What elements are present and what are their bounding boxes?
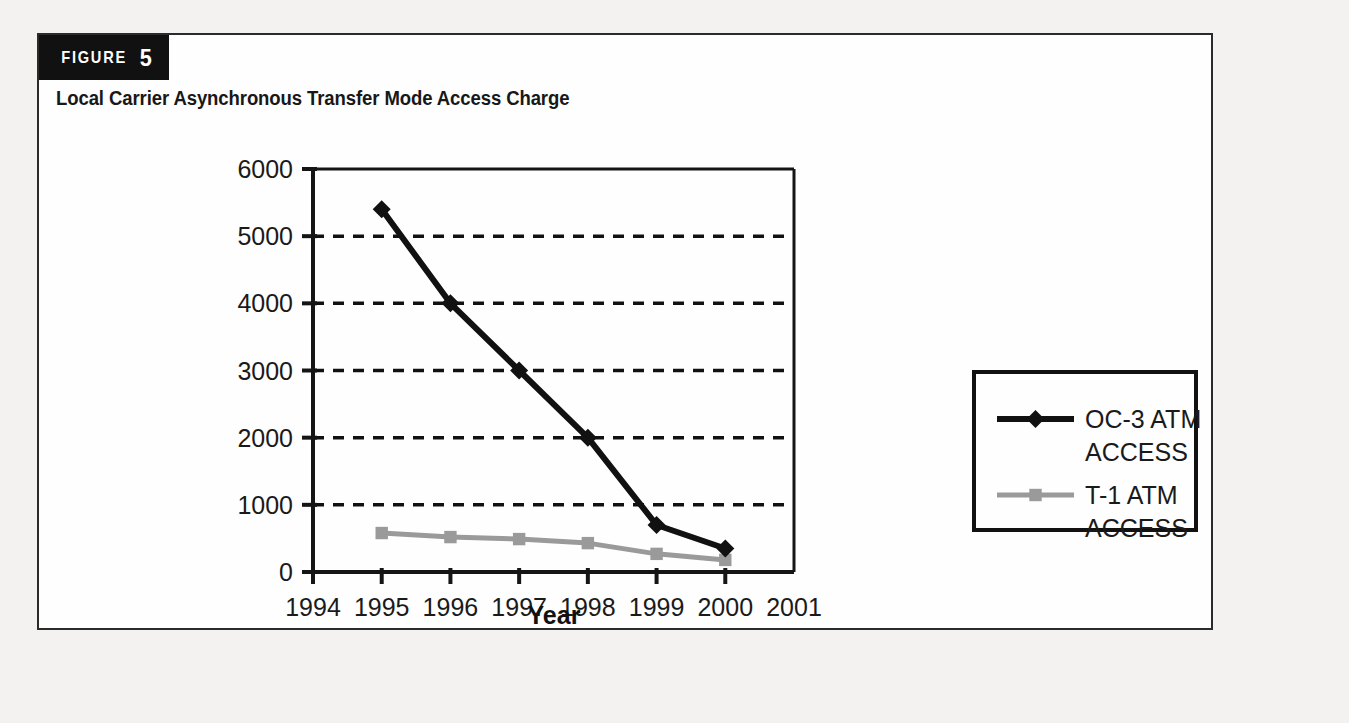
y-tick-label: 1000 xyxy=(237,491,293,519)
x-tick-label: 1999 xyxy=(629,593,685,621)
marker-square xyxy=(444,531,456,543)
gridlines xyxy=(313,236,794,505)
line-chart: 0100020003000400050006000 19941995199619… xyxy=(39,35,1215,632)
x-tick-label: 2000 xyxy=(697,593,753,621)
data-series-layer xyxy=(373,200,735,566)
y-tick-label: 4000 xyxy=(237,289,293,317)
legend: OC-3 ATMACCESST-1 ATMACCESS xyxy=(974,372,1201,542)
chart-area: 0100020003000400050006000 19941995199619… xyxy=(39,35,1215,632)
marker-square xyxy=(513,533,525,545)
figure-panel: FIGURE 5 Local Carrier Asynchronous Tran… xyxy=(37,33,1213,630)
x-tick-label: 1995 xyxy=(354,593,410,621)
legend-label-line2: ACCESS xyxy=(1085,514,1188,542)
x-tick-label: 2001 xyxy=(766,593,822,621)
legend-label: T-1 ATM xyxy=(1085,481,1178,509)
page-root: FIGURE 5 Local Carrier Asynchronous Tran… xyxy=(0,0,1349,723)
x-axis-title: Year xyxy=(528,601,581,629)
marker-square xyxy=(650,548,662,560)
y-axis-tick-labels: 0100020003000400050006000 xyxy=(237,155,293,586)
marker-square xyxy=(582,537,594,549)
x-tick-label: 1994 xyxy=(285,593,341,621)
y-tick-label: 0 xyxy=(279,558,293,586)
series-line xyxy=(382,209,726,548)
series-line xyxy=(382,533,726,560)
y-tick-label: 2000 xyxy=(237,424,293,452)
legend-label: OC-3 ATM xyxy=(1085,405,1201,433)
y-tick-label: 3000 xyxy=(237,357,293,385)
y-tick-label: 5000 xyxy=(237,222,293,250)
marker-diamond xyxy=(716,539,734,557)
y-tick-label: 6000 xyxy=(237,155,293,183)
marker-square xyxy=(376,527,388,539)
marker-square xyxy=(1029,489,1041,501)
x-tick-label: 1996 xyxy=(423,593,479,621)
legend-label-line2: ACCESS xyxy=(1085,438,1188,466)
